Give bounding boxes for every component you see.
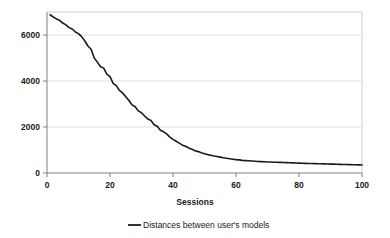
x-tick-label: 60 — [231, 180, 241, 190]
y-tick-label: 6000 — [21, 30, 40, 40]
legend-label: Distances between user's models — [143, 220, 269, 230]
x-axis-title: Sessions — [176, 197, 214, 207]
chart-container: 0 2000 4000 6000 0 20 40 60 80 100 Sessi… — [0, 0, 390, 238]
x-tick-label: 100 — [355, 180, 369, 190]
y-axis-tick-labels: 0 2000 4000 6000 — [21, 30, 40, 178]
y-tick-marks — [43, 35, 47, 173]
x-axis-tick-labels: 0 20 40 60 80 100 — [45, 180, 370, 190]
y-tick-label: 2000 — [21, 122, 40, 132]
chart-legend: Distances between user's models — [128, 220, 269, 230]
y-tick-label: 4000 — [21, 76, 40, 86]
x-tick-label: 40 — [168, 180, 178, 190]
x-tick-label: 0 — [45, 180, 50, 190]
x-tick-marks — [47, 173, 362, 177]
x-tick-label: 20 — [105, 180, 115, 190]
y-tick-label: 0 — [35, 168, 40, 178]
plot-background — [47, 12, 362, 173]
line-chart: 0 2000 4000 6000 0 20 40 60 80 100 Sessi… — [0, 0, 390, 238]
x-tick-label: 80 — [294, 180, 304, 190]
